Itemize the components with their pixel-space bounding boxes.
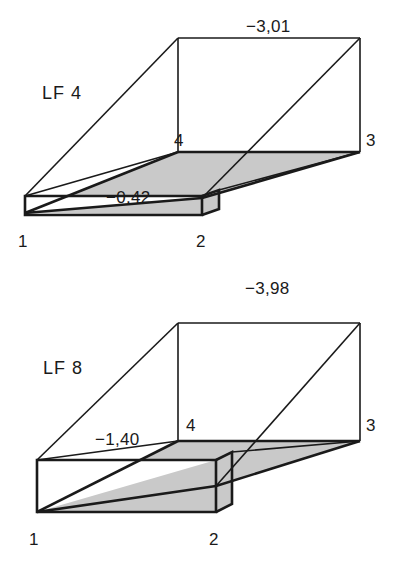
figure-lf4: −3,01 LF 4 −0,42 4 3 1 2 [0,0,404,285]
figure-lf4-node-1-label: 1 [18,232,28,251]
figure-lf8-node-1-label: 1 [29,530,39,549]
figure-lf8-front-value-label: −1,40 [95,430,140,449]
figure-page: −3,01 LF 4 −0,42 4 3 1 2 [0,0,404,570]
figure-lf4-node-3-label: 3 [366,131,376,150]
figure-lf8-name-label: LF 8 [43,358,83,378]
figure-lf4-name-label: LF 4 [42,83,82,103]
figure-lf8-node-4-label: 4 [186,416,196,435]
figure-lf8-node-2-label: 2 [209,530,219,549]
figure-lf8-node-3-label: 3 [366,416,376,435]
figure-lf4-top-value-label: −3,01 [246,17,291,36]
figure-lf8-top-value-label: −3,98 [245,280,290,298]
figure-lf8: −3,98 LF 8 −1,40 4 3 1 2 [0,280,404,570]
figure-lf4-node-4-label: 4 [174,131,184,150]
figure-lf4-node-2-label: 2 [196,232,206,251]
figure-lf4-front-value-label: −0,42 [106,188,151,207]
